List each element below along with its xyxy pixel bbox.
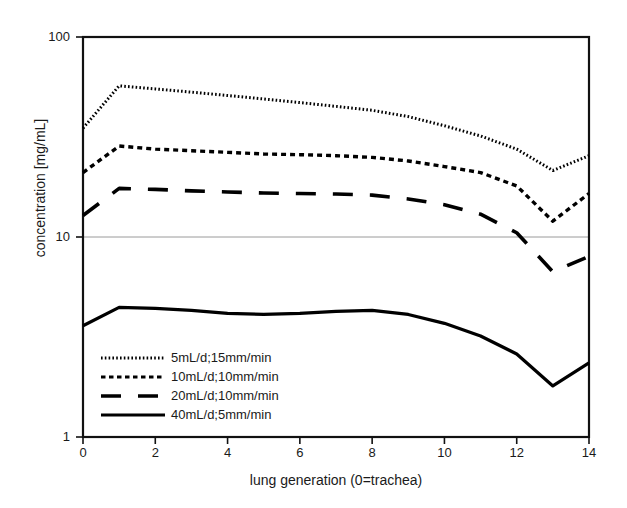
series-line-1 — [83, 146, 589, 221]
y-tick-label-100: 100 — [10, 30, 70, 43]
legend-item-1: 10mL/d;10mm/min — [100, 367, 340, 386]
legend-swatch-dashed — [100, 369, 166, 385]
legend-item-3: 40mL/d;5mm/min — [100, 405, 340, 424]
chart-plot-area — [0, 0, 627, 508]
chart-figure: 100 10 1 02468101214 concentration [mg/m… — [0, 0, 627, 508]
legend-item-0: 5mL/d;15mm/min — [100, 348, 340, 367]
x-tick-label-6: 6 — [270, 446, 330, 459]
y-axis-title: concentration [mg/mL] — [32, 88, 48, 288]
series-line-2 — [83, 188, 589, 271]
legend-label-0: 5mL/d;15mm/min — [171, 351, 271, 364]
x-tick-label-4: 4 — [198, 446, 258, 459]
legend-swatch-long-dash — [100, 388, 166, 404]
legend-swatch-solid — [100, 407, 166, 423]
x-tick-label-10: 10 — [414, 446, 474, 459]
legend-label-3: 40mL/d;5mm/min — [171, 408, 271, 421]
chart-legend: 5mL/d;15mm/min 10mL/d;10mm/min 20mL/d;10… — [100, 348, 340, 424]
series-line-0 — [83, 86, 589, 171]
x-tick-label-14: 14 — [559, 446, 619, 459]
legend-swatch-dotted — [100, 350, 166, 366]
y-tick-label-1: 1 — [10, 430, 70, 443]
legend-label-2: 20mL/d;10mm/min — [171, 389, 279, 402]
x-tick-label-12: 12 — [487, 446, 547, 459]
data-series-layer — [83, 86, 589, 386]
x-tick-label-8: 8 — [342, 446, 402, 459]
legend-label-1: 10mL/d;10mm/min — [171, 370, 279, 383]
x-tick-label-2: 2 — [125, 446, 185, 459]
x-axis-title: lung generation (0=trachea) — [83, 472, 589, 488]
legend-item-2: 20mL/d;10mm/min — [100, 386, 340, 405]
x-tick-label-0: 0 — [53, 446, 113, 459]
